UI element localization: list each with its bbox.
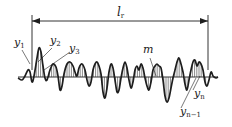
label-y3: y3 — [69, 43, 80, 56]
label-yn: yn — [194, 88, 205, 101]
label-y1: y1 — [14, 37, 25, 50]
label-sub: n−1 — [186, 111, 201, 119]
sampling-length-label: lr — [117, 6, 124, 20]
roughness-profile-diagram: lr y1 y2 y3 m yn yn−1 — [0, 0, 232, 127]
label-m: m — [143, 44, 153, 55]
label-sub: r — [121, 12, 124, 20]
label-sub: 1 — [20, 42, 24, 50]
label-main: m — [143, 43, 153, 56]
label-yn-1: yn−1 — [180, 106, 201, 119]
label-sub: n — [200, 93, 205, 101]
label-sub: 3 — [75, 48, 79, 56]
label-y2: y2 — [50, 35, 61, 48]
label-sub: 2 — [56, 40, 60, 48]
leader-y1 — [22, 50, 30, 64]
